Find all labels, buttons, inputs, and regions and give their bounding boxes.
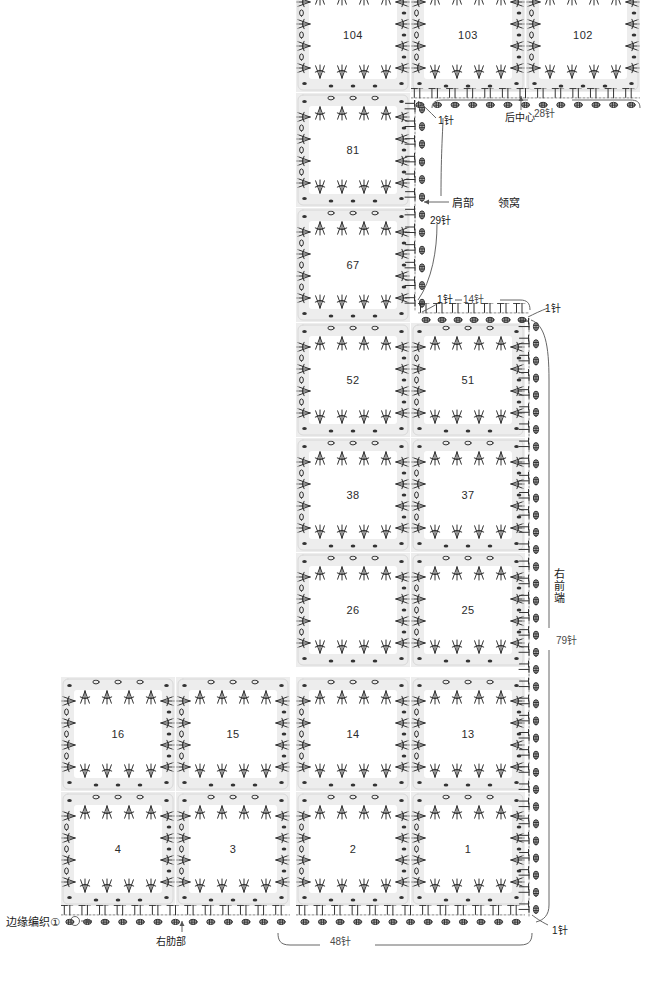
pattern-diagram: 104 103 102 81 67 52 51 38 37 26 25 16 1…	[0, 0, 668, 1004]
right-front-stitch-count-1: 1针	[545, 303, 561, 315]
back-center-label: 后中心	[505, 112, 535, 124]
top-stitch-count-1: 1针	[438, 115, 454, 127]
neckline-label: 领窝	[498, 197, 520, 210]
edge-knit-label: 边缘编织①	[6, 916, 60, 929]
leader-lines	[0, 0, 668, 1004]
right-front-stitch-count-79: 79针	[556, 635, 577, 647]
bottom-right-stitch-count-1: 1针	[552, 925, 568, 937]
back-stitch-count-28: 28针	[534, 108, 555, 120]
right-front-label: 右前端	[552, 568, 564, 604]
shoulder-stitch-count-29: 29针	[430, 215, 451, 227]
shoulder-label: 肩部	[452, 197, 474, 210]
front-stitch-count-14: 14针	[463, 294, 484, 306]
front-neck-stitch-count-1: 1针	[437, 294, 453, 306]
right-rib-label: 右肋部	[156, 936, 186, 948]
bottom-stitch-count-48: 48针	[330, 936, 351, 948]
